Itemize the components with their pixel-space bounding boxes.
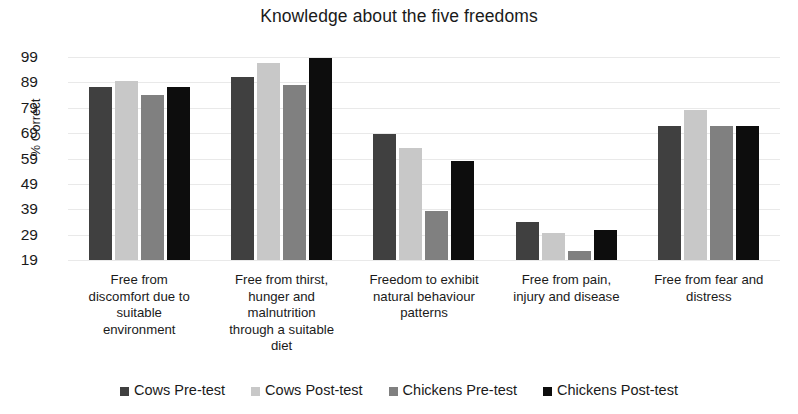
x-axis-category-label-line: injury and disease [487,289,645,306]
chart-title: Knowledge about the five freedoms [0,6,798,27]
legend-swatch-icon [543,387,552,396]
legend-label: Cows Post-test [265,382,363,398]
bar[interactable] [231,77,254,260]
legend-item[interactable]: Cows Pre-test [120,382,225,398]
legend-label: Cows Pre-test [134,382,225,398]
x-axis-category-label: Freedom to exhibitnatural behaviourpatte… [345,272,503,322]
bar[interactable] [542,233,565,260]
legend-label: Chickens Post-test [557,382,678,398]
bar[interactable] [684,110,707,260]
x-axis-category-label-line: Free from fear and [630,272,788,289]
bar-group [638,57,780,260]
bar[interactable] [167,87,190,260]
y-axis-tick-label: 59 [0,151,38,167]
x-axis-category-labels: Free fromdiscomfort due tosuitableenviro… [68,272,780,364]
legend-item[interactable]: Cows Post-test [251,382,363,398]
bar[interactable] [658,126,681,260]
x-axis-category-label-line: discomfort due to [60,289,218,306]
bar[interactable] [283,85,306,260]
bar[interactable] [399,148,422,260]
bar-group [210,57,352,260]
bar-chart: Knowledge about the five freedoms % Corr… [0,0,798,414]
x-axis-category-label: Free from pain,injury and disease [487,272,645,305]
chart-legend: Cows Pre-testCows Post-testChickens Pre-… [0,382,798,398]
bar[interactable] [309,58,332,260]
bar[interactable] [373,134,396,260]
x-axis-category-label-line: patterns [345,305,503,322]
bar[interactable] [568,251,591,260]
bar[interactable] [516,222,539,260]
x-axis-category-label-line: Free from [60,272,218,289]
plot-area: 192939495969798999 [68,57,780,260]
x-axis-category-label-line: environment [60,322,218,339]
bar[interactable] [141,95,164,260]
gridline [68,260,780,261]
x-axis-category-label-line: diet [202,338,360,355]
x-axis-category-label: Free from fear anddistress [630,272,788,305]
y-axis-tick-label: 79 [0,100,38,116]
x-axis-category-label: Free fromdiscomfort due tosuitableenviro… [60,272,218,338]
x-axis-category-label-line: Freedom to exhibit [345,272,503,289]
x-axis-category-label-line: natural behaviour [345,289,503,306]
y-axis-tick-label: 49 [0,176,38,192]
bar[interactable] [425,211,448,260]
y-axis-tick-label: 99 [0,49,38,65]
y-axis-tick-label: 89 [0,75,38,91]
x-axis-category-label-line: Free from pain, [487,272,645,289]
x-axis-category-label-line: through a suitable [202,322,360,339]
bar[interactable] [257,63,280,260]
bar[interactable] [710,126,733,260]
bar[interactable] [451,161,474,260]
bar-group [353,57,495,260]
y-axis-tick-label: 29 [0,227,38,243]
legend-item[interactable]: Chickens Post-test [543,382,678,398]
x-axis-category-label-line: distress [630,289,788,306]
legend-label: Chickens Pre-test [403,382,517,398]
x-axis-category-label-line: hunger and [202,289,360,306]
x-axis-category-label-line: Free from thirst, [202,272,360,289]
legend-swatch-icon [251,387,260,396]
bar[interactable] [115,81,138,260]
bar[interactable] [736,126,759,260]
x-axis-category-label: Free from thirst,hunger andmalnutritiont… [202,272,360,355]
legend-swatch-icon [389,387,398,396]
y-axis-tick-label: 39 [0,202,38,218]
x-axis-category-label-line: malnutrition [202,305,360,322]
bar[interactable] [89,87,112,260]
bar-group [495,57,637,260]
x-axis-category-label-line: suitable [60,305,218,322]
legend-item[interactable]: Chickens Pre-test [389,382,517,398]
bar-group [68,57,210,260]
legend-swatch-icon [120,387,129,396]
y-axis-tick-label: 69 [0,125,38,141]
y-axis-tick-label: 19 [0,252,38,268]
bar[interactable] [594,230,617,260]
